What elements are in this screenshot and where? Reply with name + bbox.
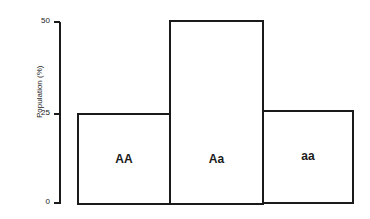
bar-AA: AA — [77, 113, 171, 205]
y-tick-label-50: 50 — [20, 16, 50, 25]
y-tick-25 — [54, 113, 60, 115]
bar-Aa: Aa — [169, 20, 264, 205]
y-tick-label-25: 25 — [20, 108, 50, 117]
y-tick-50 — [54, 21, 60, 23]
bar-label-Aa: Aa — [171, 152, 262, 166]
y-tick-0 — [54, 202, 60, 204]
bar-label-aa: aa — [264, 149, 352, 163]
bar-aa: aa — [262, 110, 354, 204]
bar-label-AA: AA — [79, 152, 169, 166]
y-tick-label-0: 0 — [20, 197, 50, 206]
